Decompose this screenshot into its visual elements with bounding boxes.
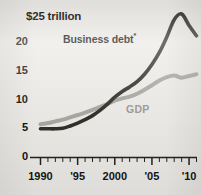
y-axis-top-label: $25 trillion xyxy=(26,10,81,22)
series-label-business-debt-text: Business debt xyxy=(63,33,133,45)
business-debt-footnote-marker: * xyxy=(133,32,136,39)
y-axis-tick-label: 5 xyxy=(2,121,28,133)
x-axis-tick-label: 2000 xyxy=(95,170,135,182)
series-label-gdp: GDP xyxy=(126,103,150,115)
y-axis-tick-label: 0 xyxy=(2,150,28,162)
y-axis-tick-label: 20 xyxy=(2,35,28,47)
x-axis-tick-label: '05 xyxy=(132,170,172,182)
x-axis-tick-label: 1990 xyxy=(21,170,61,182)
x-axis-ticks xyxy=(41,158,197,165)
y-axis-tick-label: 10 xyxy=(2,93,28,105)
x-axis-tick-label: '95 xyxy=(58,170,98,182)
chart-plot-area xyxy=(0,0,201,195)
x-axis-tick-label: '10 xyxy=(169,170,201,182)
series-label-business-debt: Business debt* xyxy=(63,32,136,45)
chart-container: $25 trillion 20151050 1990'952000'05'10 … xyxy=(0,0,201,195)
series-line-gdp xyxy=(41,74,197,124)
y-axis-tick-label: 15 xyxy=(2,64,28,76)
